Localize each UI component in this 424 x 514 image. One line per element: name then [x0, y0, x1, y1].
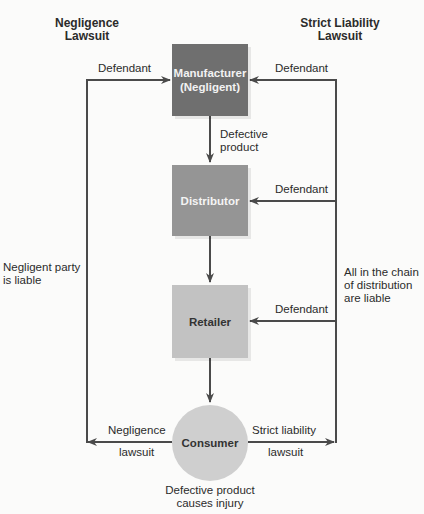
label-line: are liable	[344, 292, 419, 305]
defendant-label-left: Defendant	[98, 62, 151, 75]
label-line: All in the chain	[344, 266, 419, 279]
node-label: Retailer	[189, 315, 231, 329]
injury-caption: Defective product causes injury	[160, 484, 260, 510]
manufacturer-node: Manufacturer (Negligent)	[172, 44, 248, 116]
label-line: of distribution	[344, 279, 419, 292]
consumer-node: Consumer	[172, 405, 248, 481]
strict-liability-lawsuit-label-bottom: lawsuit	[268, 446, 303, 459]
header-line: Lawsuit	[40, 30, 134, 43]
negligent-party-liable-label: Negligent party is liable	[3, 261, 80, 287]
negligence-lawsuit-label-top: Negligence	[108, 424, 166, 437]
label-line: is liable	[3, 274, 80, 287]
label-line: Negligent party	[3, 261, 80, 274]
node-label: Consumer	[182, 437, 239, 449]
strict-liability-lawsuit-label-top: Strict liability	[252, 424, 316, 437]
label-line: product	[220, 141, 268, 154]
header-line: Lawsuit	[290, 30, 390, 43]
strict-liability-header: Strict Liability Lawsuit	[290, 17, 390, 43]
negligence-lawsuit-header: Negligence Lawsuit	[40, 17, 134, 43]
node-label: Distributor	[181, 194, 240, 208]
negligence-lawsuit-label-bottom: lawsuit	[119, 446, 154, 459]
chain-liable-label: All in the chain of distribution are lia…	[344, 266, 419, 305]
retailer-node: Retailer	[172, 285, 248, 358]
node-label: (Negligent)	[174, 80, 247, 94]
distributor-node: Distributor	[172, 165, 248, 236]
defendant-label-distributor: Defendant	[275, 183, 328, 196]
defendant-label-manufacturer: Defendant	[275, 62, 328, 75]
label-line: Defective product	[160, 484, 260, 497]
label-line: causes injury	[160, 497, 260, 510]
node-label: Manufacturer	[174, 66, 247, 80]
label-line: Defective	[220, 128, 268, 141]
defendant-label-retailer: Defendant	[275, 303, 328, 316]
defective-product-label: Defective product	[220, 128, 268, 154]
